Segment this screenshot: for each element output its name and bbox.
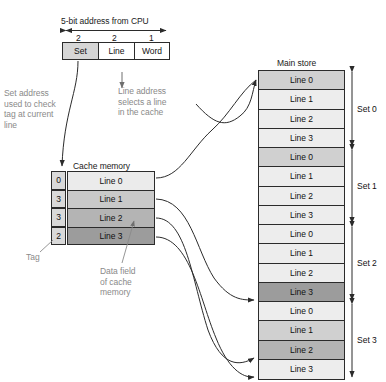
main-store-row[interactable]: Line 2 (259, 341, 344, 360)
cache-line1-connector (156, 199, 254, 300)
address-field-word[interactable]: Word (135, 43, 169, 59)
address-title: 5-bit address from CPU (61, 16, 149, 27)
set-label-1: Set 1 (357, 181, 377, 191)
cache-line: Line 2 (67, 208, 155, 227)
main-store-row[interactable]: Line 1 (259, 321, 344, 340)
main-store-row[interactable]: Line 0 (259, 225, 344, 244)
cache-line2-connector (156, 218, 254, 363)
cache-line3-connector (156, 237, 254, 377)
set-label-3: Set 3 (357, 335, 377, 345)
main-store-row[interactable]: Line 1 (259, 90, 344, 109)
address-field-box: Set Line Word (62, 42, 170, 60)
line-note-to-main-store-arrow (196, 80, 256, 123)
main-store-row[interactable]: Line 2 (259, 264, 344, 283)
cache-line0-connector (156, 80, 256, 178)
main-store-row[interactable]: Line 3 (259, 283, 344, 302)
address-field-line[interactable]: Line (99, 43, 135, 59)
cache-line: Line 0 (67, 171, 155, 190)
main-store-row[interactable]: Line 0 (259, 302, 344, 321)
main-store-row[interactable]: Line 3 (259, 129, 344, 148)
main-store-row[interactable]: Line 3 (259, 360, 344, 379)
main-store-row[interactable]: Line 2 (259, 187, 344, 206)
cache-row[interactable]: 2 Line 3 (51, 227, 155, 246)
cache-memory-block: 0 Line 0 3 Line 1 3 Line 2 2 Line 3 (51, 171, 155, 245)
cache-memory-title: Cache memory (73, 161, 130, 172)
set-label-0: Set 0 (357, 104, 377, 114)
diagram-canvas: 5-bit address from CPU 2 2 1 Set Line Wo… (0, 0, 386, 382)
set-label-2: Set 2 (357, 258, 377, 268)
main-store-block: Line 0 Line 1 Line 2 Line 3 Line 0 Line … (258, 70, 345, 380)
cache-row[interactable]: 0 Line 0 (51, 171, 155, 190)
data-field-note: Data field of cache memory (100, 266, 135, 298)
cache-row[interactable]: 3 Line 1 (51, 190, 155, 209)
main-store-row[interactable]: Line 1 (259, 167, 344, 186)
cache-tag: 3 (51, 208, 66, 227)
main-store-row[interactable]: Line 0 (259, 148, 344, 167)
address-field-set[interactable]: Set (63, 43, 99, 59)
main-store-row[interactable]: Line 1 (259, 244, 344, 263)
cache-tag: 2 (51, 227, 66, 246)
main-store-title: Main store (277, 58, 316, 69)
main-store-row[interactable]: Line 3 (259, 206, 344, 225)
cache-tag: 3 (51, 190, 66, 209)
cache-row[interactable]: 3 Line 2 (51, 208, 155, 227)
tag-label: Tag (26, 252, 40, 263)
line-address-note: Line address selects a line in the cache (118, 86, 166, 118)
cache-line: Line 3 (67, 227, 155, 246)
set-address-note: Set address used to check tag at current… (4, 88, 56, 130)
set-field-to-tag-arrow (62, 61, 78, 166)
cache-tag: 0 (51, 171, 66, 190)
main-store-row[interactable]: Line 2 (259, 110, 344, 129)
cache-line: Line 1 (67, 190, 155, 209)
main-store-row[interactable]: Line 0 (259, 71, 344, 90)
